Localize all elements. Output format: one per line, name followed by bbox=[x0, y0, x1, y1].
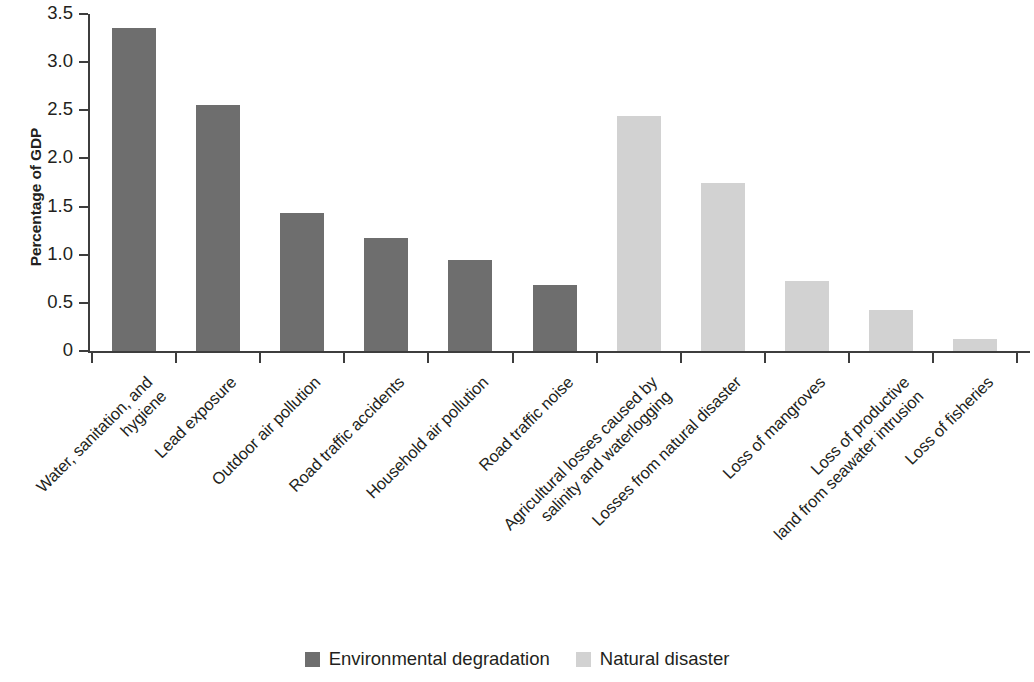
legend-label: Environmental degradation bbox=[329, 648, 550, 670]
legend-label: Natural disaster bbox=[600, 648, 730, 670]
x-axis-tick bbox=[259, 353, 261, 363]
y-axis-tick: 1.5 bbox=[79, 206, 88, 208]
y-axis-tick-label: 0 bbox=[17, 339, 73, 361]
x-axis-tick bbox=[91, 353, 93, 363]
y-axis-tick-label: 2.0 bbox=[17, 146, 73, 168]
x-axis-category-label: Water, sanitation, and hygiene bbox=[32, 372, 170, 510]
plot-area: 3.53.02.52.01.51.00.50 Water, sanitation… bbox=[88, 14, 1030, 351]
y-axis-tick: 1.0 bbox=[79, 254, 88, 256]
legend-swatch-icon bbox=[576, 652, 591, 667]
x-axis-category-label: Loss of productive land from seawater in… bbox=[755, 372, 927, 544]
y-axis-tick: 2.5 bbox=[79, 109, 88, 111]
x-axis-tick bbox=[764, 353, 766, 363]
legend-entry: Environmental degradation bbox=[305, 648, 550, 670]
x-axis-tick bbox=[175, 353, 177, 363]
bar bbox=[869, 310, 913, 351]
bar bbox=[785, 281, 829, 351]
bar bbox=[112, 28, 156, 351]
x-axis-tick bbox=[596, 353, 598, 363]
legend-swatch-icon bbox=[305, 652, 320, 667]
bar bbox=[196, 105, 240, 351]
y-axis-line bbox=[88, 14, 90, 351]
y-axis-tick: 3.5 bbox=[79, 13, 88, 15]
y-axis-tick: 0.5 bbox=[79, 302, 88, 304]
x-axis-category-label: Loss of fisheries bbox=[901, 372, 998, 469]
y-axis-tick: 2.0 bbox=[79, 157, 88, 159]
bar bbox=[280, 213, 324, 351]
x-axis-line bbox=[88, 351, 1030, 353]
bar-chart: Percentage of GDP 3.53.02.52.01.51.00.50… bbox=[0, 0, 1034, 682]
bar bbox=[533, 285, 577, 351]
y-axis-tick: 3.0 bbox=[79, 61, 88, 63]
x-axis-tick bbox=[512, 353, 514, 363]
x-axis-category-label: Lead exposure bbox=[150, 372, 240, 462]
y-axis-tick-label: 1.5 bbox=[17, 195, 73, 217]
x-axis-tick bbox=[427, 353, 429, 363]
bar bbox=[701, 183, 745, 351]
y-axis-tick-label: 1.0 bbox=[17, 243, 73, 265]
bar bbox=[953, 339, 997, 351]
bar bbox=[617, 116, 661, 351]
bar bbox=[364, 238, 408, 351]
x-axis-tick bbox=[680, 353, 682, 363]
bar bbox=[448, 260, 492, 351]
y-axis-tick: 0 bbox=[79, 350, 88, 352]
y-axis-tick-label: 0.5 bbox=[17, 291, 73, 313]
x-axis-tick bbox=[932, 353, 934, 363]
y-axis-tick-label: 3.0 bbox=[17, 50, 73, 72]
chart-legend: Environmental degradationNatural disaste… bbox=[0, 648, 1034, 670]
y-axis-tick-label: 3.5 bbox=[17, 2, 73, 24]
legend-entry: Natural disaster bbox=[576, 648, 730, 670]
x-axis-tick bbox=[848, 353, 850, 363]
y-axis-tick-label: 2.5 bbox=[17, 98, 73, 120]
x-axis-tick bbox=[343, 353, 345, 363]
x-axis-tick bbox=[1016, 353, 1018, 363]
